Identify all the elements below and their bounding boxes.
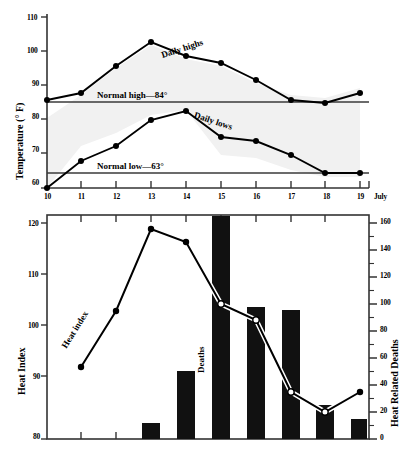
bottom-plot-area — [0, 205, 403, 459]
bottom-left-ticks — [41, 223, 47, 439]
top-x-ticks — [81, 181, 369, 188]
top-panel-temperature: Temperature (° F) 110 100 90 80 70 60 10… — [0, 0, 403, 205]
annotation-normal-high: Normal high—84° — [97, 90, 167, 100]
figure-temperature-heat-deaths: Temperature (° F) 110 100 90 80 70 60 10… — [0, 0, 403, 459]
bottom-right-ticks-major — [369, 223, 377, 439]
bar-day-16 — [247, 307, 265, 439]
bottom-top-ticks — [81, 215, 325, 222]
bar-day-14 — [177, 371, 195, 439]
top-plot-area — [0, 0, 403, 205]
annotation-normal-low: Normal low—63° — [97, 161, 164, 171]
bar-day-19 — [351, 419, 367, 439]
bottom-panel-heat-index-deaths: Heat Index Heat Related Deaths 120 110 1… — [0, 205, 403, 459]
annotation-deaths: Deaths — [196, 347, 206, 374]
bar-day-15 — [212, 216, 230, 439]
bar-day-13 — [142, 423, 160, 439]
